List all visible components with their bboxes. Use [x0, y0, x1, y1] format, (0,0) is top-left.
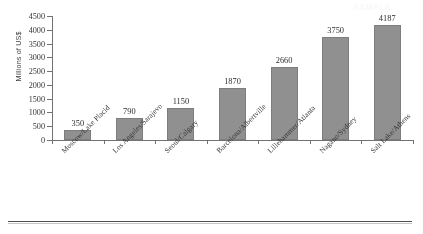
footer-rule-shadow	[8, 223, 412, 224]
bar-value-label: 3750	[327, 26, 344, 35]
bar-chart: SAMPLE Millions of US$ 05001000150020002…	[0, 0, 423, 234]
x-tick	[310, 140, 311, 144]
y-axis-line	[52, 16, 53, 140]
bar-value-label: 790	[123, 107, 136, 116]
y-tick	[47, 16, 52, 17]
y-tick	[47, 71, 52, 72]
bar-value-label: 2660	[276, 56, 293, 65]
y-tick-label: 3500	[29, 39, 45, 48]
y-tick-label: 1500	[29, 94, 45, 103]
y-tick-label: 3000	[29, 53, 45, 62]
y-tick	[47, 126, 52, 127]
y-tick	[47, 57, 52, 58]
y-tick-label: 2000	[29, 80, 45, 89]
x-tick	[52, 140, 53, 144]
x-tick	[104, 140, 105, 144]
y-tick	[47, 112, 52, 113]
y-tick	[47, 44, 52, 45]
y-tick	[47, 85, 52, 86]
x-tick	[207, 140, 208, 144]
y-tick	[47, 30, 52, 31]
y-tick	[47, 99, 52, 100]
bar-value-label: 1870	[224, 77, 241, 86]
y-tick-label: 0	[41, 136, 45, 145]
y-tick-label: 2500	[29, 67, 45, 76]
x-tick	[155, 140, 156, 144]
x-tick	[413, 140, 414, 144]
y-axis-title: Millions of US$	[14, 7, 23, 107]
x-tick	[361, 140, 362, 144]
plot-area: 050010001500200025003000350040004500 350…	[52, 16, 413, 140]
bar-value-label: 1150	[173, 97, 189, 106]
bar-value-label: 4187	[379, 14, 396, 23]
y-tick-label: 500	[33, 122, 45, 131]
footer-rule	[8, 221, 412, 222]
y-tick-label: 4000	[29, 25, 45, 34]
y-tick-label: 1000	[29, 108, 45, 117]
y-tick-label: 4500	[29, 12, 45, 21]
x-tick	[258, 140, 259, 144]
